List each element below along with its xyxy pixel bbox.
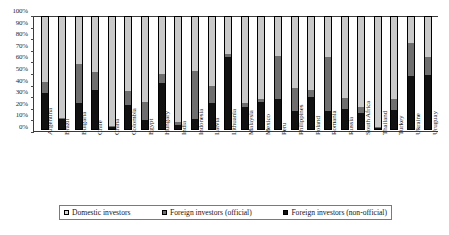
legend-swatch-nonofficial-icon: [283, 210, 288, 215]
bar-segment-foreign-official: [209, 86, 215, 103]
x-axis-label-hungary: Hungary: [164, 111, 171, 135]
bar-segment-domestic-investors: [76, 17, 82, 64]
x-axis-label-china: China: [114, 119, 121, 135]
y-axis-tick-label: 40%: [16, 77, 28, 84]
stacked-bar: [274, 16, 282, 130]
bar-segment-foreign-official: [275, 56, 281, 99]
bar-segment-domestic-investors: [325, 17, 331, 57]
bar-segment-foreign-official: [142, 102, 148, 120]
x-axis-label-brazil: Brazil: [64, 118, 71, 135]
bar-segment-domestic-investors: [175, 17, 181, 122]
legend-item[interactable]: Foreign investors (official): [162, 208, 252, 217]
bar-segment-foreign-official: [425, 57, 431, 75]
stacked-bar: [307, 16, 315, 130]
y-axis-tick-mark: [31, 74, 34, 75]
y-axis-tick-label: 0%: [19, 124, 28, 131]
legend-label: Foreign investors (non-official): [291, 208, 387, 217]
bar-segment-foreign-official: [308, 90, 314, 97]
y-axis-tick-mark: [31, 28, 34, 29]
y-axis-tick-label: 70%: [16, 42, 28, 49]
bar-segment-domestic-investors: [59, 17, 65, 118]
legend-item[interactable]: Foreign investors (non-official): [283, 208, 387, 217]
bar-segment-domestic-investors: [125, 17, 131, 91]
legend-swatch-official-icon: [162, 210, 167, 215]
bar-segment-domestic-investors: [408, 17, 414, 43]
x-axis-label-poland: Poland: [315, 116, 322, 135]
bar-segment-domestic-investors: [425, 17, 431, 57]
chart-figure: 100%90%80%70%60%50%40%30%20%10%0% Argent…: [0, 0, 449, 235]
bar-segment-foreign-official: [125, 91, 131, 106]
chart-legend: Domestic investorsForeign investors (off…: [59, 205, 392, 220]
x-axis-label-mexico: Mexico: [265, 114, 272, 135]
x-axis-label-egypt: Egypt: [148, 119, 155, 135]
bar-segment-domestic-investors: [225, 17, 231, 54]
bar-segment-domestic-investors: [109, 17, 115, 126]
stacked-bar: [208, 16, 216, 130]
bar-segment-foreign-official: [76, 64, 82, 103]
bar-segment-domestic-investors: [358, 17, 364, 107]
y-axis-tick-mark: [31, 97, 34, 98]
bar-column: [87, 16, 104, 130]
y-axis-tick-label: 50%: [16, 66, 28, 73]
x-axis-label-colombia: Colombia: [131, 108, 138, 135]
y-axis-tick-label: 80%: [16, 31, 28, 38]
stacked-bar: [174, 16, 182, 130]
x-axis-label-indonesia: Indonesia: [198, 109, 205, 135]
bar-segment-foreign-nonofficial: [375, 128, 381, 129]
bar-column: [137, 16, 154, 130]
y-axis-tick-mark: [31, 109, 34, 110]
x-axis-label-romania: Romania: [331, 110, 338, 135]
legend-swatch-domestic-icon: [64, 210, 69, 215]
x-axis-label-latvia: Latvia: [214, 118, 221, 135]
bar-segment-foreign-nonofficial: [425, 75, 431, 129]
bar-segment-foreign-official: [92, 72, 98, 90]
stacked-bar: [141, 16, 149, 130]
y-axis-tick-mark: [31, 51, 34, 52]
bar-column: [336, 16, 353, 130]
y-axis-tick-label: 10%: [16, 112, 28, 119]
stacked-bar: [341, 16, 349, 130]
bar-segment-domestic-investors: [292, 17, 298, 88]
stacked-bar: [108, 16, 116, 130]
x-axis-label-peru: Peru: [281, 123, 288, 135]
x-axis-label-bulgaria: Bulgaria: [81, 112, 88, 135]
bar-segment-domestic-investors: [342, 17, 348, 98]
x-axis-labels: ArgentinaBrazilBulgariaChileChinaColombi…: [34, 133, 439, 195]
x-axis-label-malaysia: Malaysia: [248, 110, 255, 135]
x-axis-label-turkey: Turkey: [398, 116, 405, 135]
bar-segment-domestic-investors: [92, 17, 98, 72]
x-axis-label-ukraine: Ukraine: [415, 113, 422, 135]
bar-segment-domestic-investors: [142, 17, 148, 102]
legend-label: Domestic investors: [72, 208, 130, 217]
bar-segment-foreign-official: [408, 43, 414, 77]
bar-segment-foreign-official: [391, 99, 397, 110]
bar-column: [170, 16, 187, 130]
legend-label: Foreign investors (official): [170, 208, 252, 217]
stacked-bar: [390, 16, 398, 130]
bar-column: [270, 16, 287, 130]
bar-column: [303, 16, 320, 130]
bar-segment-domestic-investors: [258, 17, 264, 99]
y-axis-tick-label: 30%: [16, 89, 28, 96]
x-axis-label-chile: Chile: [97, 120, 104, 135]
bar-segment-domestic-investors: [192, 17, 198, 71]
bar-column: [104, 16, 121, 130]
bar-segment-foreign-official: [159, 74, 165, 83]
y-axis: 100%90%80%70%60%50%40%30%20%10%0%: [0, 11, 31, 127]
bar-segment-domestic-investors: [308, 17, 314, 90]
bar-segment-foreign-official: [42, 82, 48, 93]
x-axis-label-lithuania: Lithuania: [231, 109, 238, 135]
bar-segment-domestic-investors: [391, 17, 397, 99]
x-axis-label-argentina: Argentina: [47, 108, 54, 135]
bar-segment-domestic-investors: [159, 17, 165, 74]
stacked-bar: [257, 16, 265, 130]
bar-segment-domestic-investors: [242, 17, 248, 103]
x-axis-label-russia: Russia: [348, 117, 355, 135]
y-axis-tick-mark: [31, 39, 34, 40]
y-axis-tick-label: 60%: [16, 54, 28, 61]
stacked-bar: [91, 16, 99, 130]
legend-item[interactable]: Domestic investors: [64, 208, 130, 217]
y-axis-tick-mark: [31, 120, 34, 121]
y-axis-tick-label: 100%: [12, 8, 28, 15]
bar-segment-domestic-investors: [375, 17, 381, 127]
